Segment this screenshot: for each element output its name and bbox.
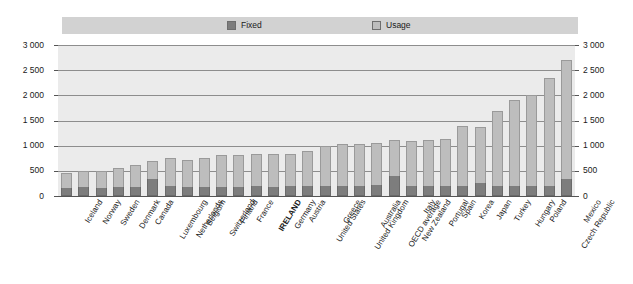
y-axis-tick-mark-left — [54, 70, 58, 71]
bar-segment-fixed — [320, 186, 331, 196]
y-axis-tick-label-right: 2 500 — [583, 66, 604, 75]
x-axis-tick-label: Japan — [494, 198, 513, 221]
legend-swatch-usage-icon — [372, 21, 381, 30]
bar-group — [182, 160, 193, 196]
bar-group — [544, 78, 555, 196]
bar-segment-usage — [130, 165, 141, 188]
bar-segment-fixed — [457, 186, 468, 196]
bar-group — [233, 155, 244, 197]
bar-segment-fixed — [371, 185, 382, 196]
bar-segment-fixed — [199, 187, 210, 196]
x-axis-tick-label: Korea — [477, 198, 496, 221]
y-axis-tick-mark-right — [575, 171, 579, 172]
bar-segment-usage — [544, 78, 555, 187]
bar-group — [113, 168, 124, 196]
bar-group — [130, 165, 141, 196]
y-axis-tick-label-left: 500 — [30, 166, 44, 175]
bar-segment-fixed — [182, 187, 193, 196]
bar-segment-usage — [354, 144, 365, 186]
bar-segment-usage — [371, 143, 382, 186]
bar-segment-usage — [389, 140, 400, 176]
bar-segment-fixed — [561, 179, 572, 196]
bar-segment-usage — [113, 168, 124, 188]
bar-segment-usage — [61, 173, 72, 188]
y-axis-tick-mark-right — [575, 121, 579, 122]
bar-group — [320, 146, 331, 196]
bar-group — [285, 154, 296, 196]
bar-segment-usage — [423, 140, 434, 186]
y-axis-tick-mark-left — [54, 171, 58, 172]
x-axis-labels: IcelandNorwaySwedenDenmarkCanadaLuxembou… — [58, 198, 575, 284]
bar-group — [475, 127, 486, 196]
bar-group — [268, 154, 279, 196]
y-axis-tick-label-right: 2 000 — [583, 91, 604, 100]
y-axis-tick-mark-left — [54, 95, 58, 96]
bar-segment-fixed — [216, 187, 227, 196]
bar-group — [492, 111, 503, 196]
bar-segment-usage — [475, 127, 486, 184]
bar-segment-usage — [320, 146, 331, 186]
y-axis-tick-label-right: 0 — [583, 192, 588, 201]
bar-segment-fixed — [251, 186, 262, 196]
bar-segment-usage — [457, 126, 468, 186]
y-axis-tick-label-right: 3 000 — [583, 41, 604, 50]
y-axis-tick-label-right: 1 000 — [583, 141, 604, 150]
bar-group — [302, 151, 313, 196]
y-axis-tick-mark-right — [575, 196, 579, 197]
bar-segment-usage — [147, 161, 158, 180]
y-axis-tick-label-left: 3 000 — [23, 41, 44, 50]
bar-segment-usage — [233, 155, 244, 187]
bar-segment-fixed — [165, 186, 176, 196]
bar-group — [509, 100, 520, 196]
legend-label-usage: Usage — [386, 20, 411, 31]
y-axis-tick-mark-right — [575, 95, 579, 96]
bar-segment-fixed — [285, 186, 296, 196]
y-axis-tick-mark-right — [575, 70, 579, 71]
bar-segment-usage — [526, 95, 537, 186]
legend-entry-usage: Usage — [372, 20, 411, 31]
y-axis-tick-mark-left — [54, 196, 58, 197]
bar-segment-usage — [285, 154, 296, 187]
bar-segment-fixed — [440, 186, 451, 196]
bar-segment-fixed — [96, 188, 107, 196]
bar-segment-fixed — [509, 186, 520, 196]
bar-group — [389, 140, 400, 196]
y-axis-tick-mark-right — [575, 146, 579, 147]
y-axis-tick-mark-right — [575, 45, 579, 46]
y-axis-tick-label-left: 1 500 — [23, 116, 44, 125]
bar-group — [561, 60, 572, 196]
bar-segment-usage — [561, 60, 572, 179]
bar-group — [440, 139, 451, 196]
bar-group — [354, 144, 365, 196]
y-axis-tick-mark-left — [54, 146, 58, 147]
bar-segment-usage — [199, 158, 210, 187]
bar-segment-fixed — [389, 176, 400, 196]
bar-segment-fixed — [526, 186, 537, 196]
bar-segment-fixed — [492, 186, 503, 196]
bar-group — [147, 161, 158, 196]
bar-segment-usage — [216, 155, 227, 187]
bar-group — [371, 143, 382, 196]
bar-group — [457, 126, 468, 196]
legend-swatch-fixed-icon — [227, 21, 236, 30]
y-axis-tick-label-left: 2 000 — [23, 91, 44, 100]
y-axis-tick-label-right: 500 — [583, 166, 597, 175]
y-axis-tick-label-left: 1 000 — [23, 141, 44, 150]
chart-legend: Fixed Usage — [62, 17, 578, 34]
bar-group — [526, 95, 537, 196]
bar-segment-fixed — [354, 186, 365, 196]
bar-group — [406, 141, 417, 196]
bar-group — [61, 173, 72, 196]
bar-group — [165, 158, 176, 196]
bar-segment-fixed — [337, 186, 348, 196]
y-axis-tick-label-right: 1 500 — [583, 116, 604, 125]
bar-segment-usage — [251, 154, 262, 186]
y-axis-tick-mark-left — [54, 45, 58, 46]
legend-entry-fixed: Fixed — [227, 20, 262, 31]
stacked-bar-chart: Fixed Usage IcelandNorwaySwedenDenmarkCa… — [0, 0, 633, 284]
bars-layer — [58, 45, 575, 196]
bar-segment-usage — [492, 111, 503, 187]
bar-segment-usage — [96, 171, 107, 188]
bar-segment-usage — [182, 160, 193, 187]
bar-segment-usage — [302, 151, 313, 186]
